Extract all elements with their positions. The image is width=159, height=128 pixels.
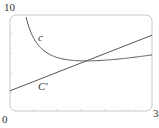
chart: 10 0 3 c C' xyxy=(0,0,159,128)
y-max-label: 10 xyxy=(4,1,16,13)
series-c-line xyxy=(26,17,152,61)
series-layer xyxy=(10,17,152,91)
x-max-label: 3 xyxy=(153,107,159,119)
curve-label-c-prime: C' xyxy=(38,80,48,92)
origin-label: 0 xyxy=(2,113,8,125)
series-c-prime-line xyxy=(10,35,152,91)
curve-label-c: c xyxy=(38,31,43,43)
